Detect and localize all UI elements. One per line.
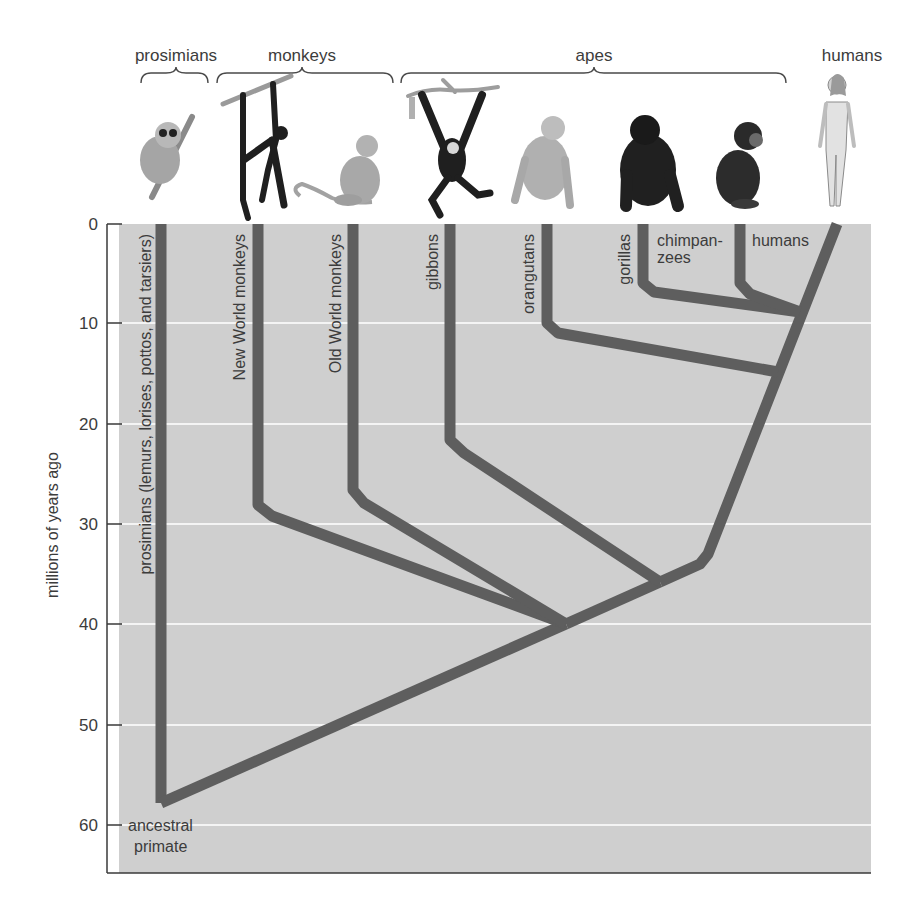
orangutan-illustration	[515, 116, 570, 205]
label-humans: humans	[752, 232, 809, 249]
primate-evolution-diagram: prosimians monkeys apes humans	[0, 0, 921, 924]
y-axis-tick-labels: 0 10 20 30 40 50 60	[79, 215, 98, 835]
brace-monkeys	[217, 67, 393, 83]
illustrations	[140, 74, 854, 218]
label-gorillas: gorillas	[616, 234, 633, 285]
brace-apes	[401, 67, 786, 83]
label-new-world-monkeys: New World monkeys	[231, 234, 248, 380]
tick-30: 30	[79, 515, 98, 534]
label-orangutans: orangutans	[520, 234, 537, 314]
group-label-humans: humans	[822, 46, 882, 65]
label-chimpanzees-line1: chimpan-	[657, 232, 723, 249]
loris-illustration	[140, 117, 192, 197]
y-axis-title: millions of years ago	[44, 452, 61, 598]
brace-prosimians	[141, 67, 208, 83]
gorilla-illustration	[620, 115, 678, 206]
human-illustration	[820, 74, 854, 206]
tick-20: 20	[79, 415, 98, 434]
tick-50: 50	[79, 716, 98, 735]
tick-0: 0	[89, 215, 98, 234]
label-chimpanzees-line2: zees	[657, 249, 691, 266]
group-label-prosimians: prosimians	[135, 46, 217, 65]
label-gibbons: gibbons	[424, 234, 441, 290]
gibbon-illustration	[408, 80, 498, 215]
tick-60: 60	[79, 816, 98, 835]
label-old-world-monkeys: Old World monkeys	[327, 234, 344, 373]
group-label-monkeys: monkeys	[268, 46, 336, 65]
macaque-illustration	[295, 135, 380, 206]
label-ancestral-primate-line2: primate	[134, 838, 187, 855]
chimpanzee-illustration	[716, 122, 763, 209]
label-ancestral-primate-line1: ancestral	[128, 817, 193, 834]
spider-monkey-illustration	[223, 76, 291, 218]
label-prosimians: prosimians (lemurs, lorises, pottos, and…	[137, 234, 154, 575]
tick-10: 10	[79, 314, 98, 333]
group-label-apes: apes	[576, 46, 613, 65]
tick-40: 40	[79, 615, 98, 634]
group-headers: prosimians monkeys apes humans	[135, 46, 882, 83]
